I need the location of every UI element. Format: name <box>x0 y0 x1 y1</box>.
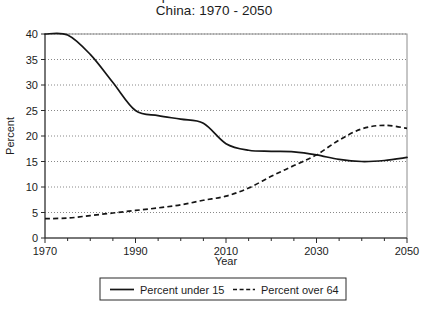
y-tick-label: 25 <box>26 105 38 117</box>
y-tick-label: 0 <box>32 232 38 244</box>
legend-label-over-64: Percent over 64 <box>261 284 339 296</box>
y-tick-label: 30 <box>26 79 38 91</box>
y-tick-label: 10 <box>26 181 38 193</box>
y-axis-ticks: 0510152025303540 <box>26 28 45 244</box>
legend-label-under-15: Percent under 15 <box>140 284 224 296</box>
x-axis-title: Year <box>215 255 238 267</box>
series-line-percent-over-64 <box>45 125 407 218</box>
x-tick-label: 2050 <box>395 245 419 257</box>
series-line-percent-under-15 <box>45 33 407 161</box>
y-tick-label: 40 <box>26 28 38 40</box>
y-tick-label: 20 <box>26 130 38 142</box>
y-tick-label: 5 <box>32 207 38 219</box>
x-tick-label: 1970 <box>33 245 57 257</box>
chart-page: Percent of Population Under 15 and Over … <box>0 0 428 313</box>
chart-legend: Percent under 15 Percent over 64 <box>100 278 346 300</box>
y-tick-label: 35 <box>26 54 38 66</box>
x-tick-label: 2030 <box>304 245 328 257</box>
population-line-chart: 0510152025303540 19701990201020302050 Pe… <box>0 0 428 313</box>
gridlines <box>45 34 407 213</box>
y-axis-title: Percent <box>4 117 16 155</box>
y-tick-label: 15 <box>26 156 38 168</box>
x-tick-label: 1990 <box>123 245 147 257</box>
